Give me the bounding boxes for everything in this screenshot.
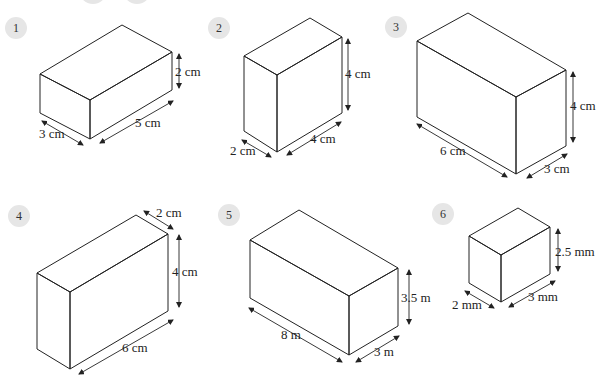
- side-face: [349, 268, 398, 355]
- top-face: [469, 208, 550, 255]
- top-face: [40, 25, 172, 100]
- side-face: [516, 70, 566, 174]
- front-face: [417, 41, 516, 174]
- figure-number: 6: [440, 207, 446, 221]
- cuboids-diagram: 1 2 cm 3 cm 5 cm 2 4 cm 2 cm 4 cm 3: [0, 0, 604, 380]
- height-label: 4 cm: [345, 66, 371, 81]
- figure-4: 4 2 cm 4 cm 6 cm: [8, 205, 198, 374]
- height-label: 4 cm: [570, 98, 596, 113]
- figure-number: 3: [393, 20, 399, 34]
- width-label: 3 cm: [39, 126, 65, 141]
- length-label: 4 cm: [310, 131, 336, 146]
- height-label: 2.5 mm: [555, 244, 595, 259]
- length-label: 8 m: [281, 327, 301, 342]
- width-label: 2 cm: [156, 205, 182, 220]
- cuboid: [250, 210, 398, 355]
- figure-2: 2 4 cm 2 cm 4 cm: [208, 17, 371, 158]
- figure-number: 2: [216, 21, 222, 35]
- width-label: 2 cm: [230, 143, 256, 158]
- figure-5: 5 3.5 m 8 m 3 m: [218, 204, 431, 362]
- figure-number: 4: [16, 209, 22, 223]
- length-label: 3 mm: [528, 289, 558, 304]
- width-label: 3 m: [374, 344, 394, 359]
- cuboid: [469, 208, 550, 302]
- width-label: 3 cm: [544, 161, 570, 176]
- figure-6: 6 2.5 mm 2 mm 3 mm: [432, 203, 595, 312]
- figure-3: 3 4 cm 6 cm 3 cm: [385, 13, 596, 178]
- length-label: 6 cm: [440, 143, 466, 158]
- height-label: 3.5 m: [401, 290, 431, 305]
- top-face: [417, 13, 566, 97]
- partial-badge: [79, 0, 107, 4]
- length-label: 5 cm: [135, 115, 161, 130]
- figure-number: 5: [226, 208, 232, 222]
- partial-badge: [123, 0, 151, 4]
- length-label: 6 cm: [122, 340, 148, 355]
- width-label: 2 mm: [452, 297, 482, 312]
- front-face: [469, 236, 501, 302]
- side-face: [70, 234, 168, 369]
- height-label: 4 cm: [172, 264, 198, 279]
- top-face: [37, 215, 168, 292]
- height-label: 2 cm: [175, 64, 201, 79]
- cuboid: [37, 215, 168, 369]
- front-face: [37, 273, 70, 369]
- top-face: [244, 18, 342, 75]
- figure-number: 1: [13, 21, 19, 35]
- figure-1: 1 2 cm 3 cm 5 cm: [5, 17, 201, 145]
- front-face: [244, 56, 277, 152]
